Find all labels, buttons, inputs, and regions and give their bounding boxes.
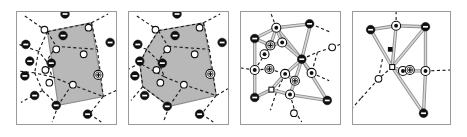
minus-glyph-icon bbox=[299, 58, 304, 60]
plus-glyph-v-icon bbox=[270, 43, 271, 47]
bullseye-center-icon bbox=[401, 69, 405, 73]
dashed-bisector-line bbox=[353, 98, 361, 107]
minus-glyph-icon bbox=[49, 62, 54, 64]
dashed-bisector-line bbox=[203, 14, 220, 23]
minus-glyph-icon bbox=[165, 106, 170, 108]
open-node-icon bbox=[53, 46, 60, 53]
minus-glyph-icon bbox=[175, 13, 180, 15]
open-node-icon bbox=[85, 24, 92, 31]
dashed-bisector-line bbox=[361, 79, 379, 99]
minus-glyph-icon bbox=[108, 42, 113, 44]
minus-glyph-icon bbox=[22, 75, 27, 77]
dashed-bisector-line bbox=[91, 14, 108, 23]
figure-container bbox=[0, 0, 467, 137]
minus-glyph-icon bbox=[252, 97, 257, 99]
panel-1-canvas bbox=[17, 12, 116, 124]
panel-4-solid-edges bbox=[371, 26, 426, 113]
open-node-icon bbox=[181, 81, 188, 88]
bullseye-center-icon bbox=[394, 24, 398, 28]
bullseye-center-icon bbox=[283, 72, 287, 76]
panel-3-canvas bbox=[241, 12, 340, 124]
panel-2-canvas bbox=[129, 12, 228, 124]
minus-node-icon bbox=[61, 12, 70, 18]
open-node-icon bbox=[42, 67, 49, 74]
open-node-icon bbox=[375, 75, 382, 82]
plus-glyph-v-icon bbox=[294, 79, 295, 83]
minus-glyph-icon bbox=[368, 29, 373, 31]
square-node-icon bbox=[269, 87, 274, 92]
open-node-icon bbox=[80, 51, 87, 58]
dashed-bisector-line bbox=[39, 32, 48, 52]
square-black-node-icon bbox=[388, 47, 393, 52]
plus-glyph-v-icon bbox=[269, 67, 270, 71]
open-node-icon bbox=[46, 79, 53, 86]
dashed-bisector-line bbox=[103, 91, 116, 97]
open-node-icon bbox=[41, 26, 48, 33]
minus-glyph-icon bbox=[142, 95, 147, 97]
minus-glyph-icon bbox=[63, 13, 68, 15]
bullseye-center-icon bbox=[253, 68, 257, 72]
minus-glyph-icon bbox=[197, 113, 202, 115]
dashed-bisector-line bbox=[39, 51, 47, 61]
minus-glyph-icon bbox=[173, 35, 178, 37]
graph-edge-inner bbox=[290, 95, 327, 101]
plus-glyph-v-icon bbox=[409, 68, 410, 72]
panel-3 bbox=[240, 11, 341, 125]
open-node-icon bbox=[153, 67, 160, 74]
open-node-icon bbox=[152, 26, 159, 33]
dashed-bisector-line bbox=[35, 73, 43, 91]
bullseye-center-icon bbox=[310, 71, 314, 75]
bullseye-center-icon bbox=[263, 52, 267, 56]
dashed-bisector-line bbox=[216, 89, 228, 96]
minus-glyph-icon bbox=[325, 100, 330, 102]
graph-edge-inner bbox=[392, 27, 425, 67]
dashed-bisector-line bbox=[270, 93, 276, 111]
minus-glyph-icon bbox=[137, 60, 142, 62]
minus-glyph-icon bbox=[423, 26, 428, 28]
open-node-icon bbox=[70, 81, 77, 88]
panel-3-solid-edges bbox=[255, 24, 328, 101]
minus-glyph-icon bbox=[252, 38, 257, 40]
minus-glyph-icon bbox=[135, 44, 140, 46]
minus-glyph-icon bbox=[132, 75, 137, 77]
square-node-icon bbox=[390, 65, 395, 70]
panel-4-canvas bbox=[353, 12, 450, 124]
bullseye-center-icon bbox=[288, 93, 292, 97]
minus-glyph-icon bbox=[27, 60, 32, 62]
dashed-bisector-line bbox=[35, 51, 39, 73]
bullseye-center-icon bbox=[424, 69, 428, 73]
open-node-icon bbox=[196, 24, 203, 31]
open-node-icon bbox=[157, 79, 164, 86]
minus-glyph-icon bbox=[23, 44, 28, 46]
panel-4 bbox=[352, 11, 451, 125]
plus-glyph-v-icon bbox=[210, 72, 211, 76]
open-node-icon bbox=[291, 110, 298, 117]
open-node-icon bbox=[329, 44, 336, 51]
minus-glyph-icon bbox=[61, 35, 66, 37]
minus-glyph-icon bbox=[32, 95, 37, 97]
plus-glyph-v-icon bbox=[98, 73, 99, 77]
graph-edge-inner bbox=[302, 24, 311, 59]
bullseye-center-icon bbox=[274, 26, 278, 30]
panel-1 bbox=[16, 11, 117, 125]
minus-glyph-icon bbox=[160, 62, 165, 64]
panel-2 bbox=[128, 11, 229, 125]
open-node-icon bbox=[164, 46, 171, 53]
minus-node-icon bbox=[173, 12, 182, 18]
minus-glyph-icon bbox=[85, 113, 90, 115]
minus-glyph-icon bbox=[54, 105, 59, 107]
minus-glyph-icon bbox=[307, 23, 312, 25]
bullseye-center-icon bbox=[280, 40, 284, 44]
minus-glyph-icon bbox=[421, 112, 426, 114]
minus-glyph-icon bbox=[220, 42, 225, 44]
dashed-bisector-line bbox=[35, 73, 53, 77]
open-node-icon bbox=[191, 51, 198, 58]
